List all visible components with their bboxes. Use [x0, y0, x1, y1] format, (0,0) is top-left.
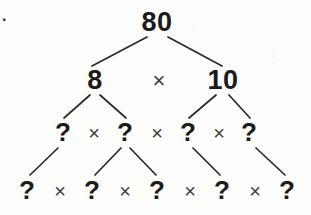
- tree-edge: [30, 148, 58, 175]
- times-operator: ×: [119, 181, 131, 201]
- tree-node-factor-8: 8: [87, 67, 103, 94]
- tree-edge: [229, 95, 250, 118]
- tree-edge: [95, 148, 121, 175]
- tree-node-unknown-r3-4: ?: [241, 119, 257, 145]
- times-operator: ×: [54, 181, 66, 201]
- tree-node-unknown-r3-1: ?: [55, 119, 71, 145]
- tree-node-unknown-r4-3: ?: [149, 177, 165, 203]
- tree-node-unknown-r4-2: ?: [84, 177, 100, 203]
- tree-edge: [193, 148, 220, 175]
- tree-node-unknown-r4-1: ?: [19, 177, 35, 203]
- times-operator: ×: [88, 123, 100, 143]
- tree-edge: [100, 95, 126, 118]
- tree-edge: [64, 95, 90, 118]
- tree-edge: [189, 95, 216, 118]
- times-operator: ×: [151, 123, 163, 143]
- tree-node-unknown-r3-3: ?: [180, 119, 196, 145]
- tree-edge: [256, 148, 285, 175]
- tree-node-unknown-r4-4: ?: [214, 177, 230, 203]
- times-operator: ×: [153, 70, 166, 92]
- times-operator: ×: [249, 181, 261, 201]
- tree-node-root: 80: [141, 9, 172, 36]
- times-operator: ×: [184, 181, 196, 201]
- tree-node-unknown-r3-2: ?: [117, 119, 133, 145]
- tree-node-factor-10: 10: [207, 67, 238, 94]
- times-operator: ×: [213, 123, 225, 143]
- tree-node-unknown-r4-5: ?: [279, 177, 295, 203]
- tree-edge: [168, 37, 222, 66]
- tree-edge: [130, 148, 156, 175]
- factor-tree-figure: 4. 80 8 × 10 ? × ? × ? × ? ? × ? × ? × ?…: [0, 0, 311, 215]
- tree-edge: [92, 37, 147, 66]
